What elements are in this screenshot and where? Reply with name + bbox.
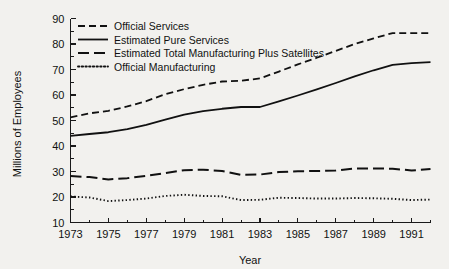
- legend-label-2: Estimated Total Manufacturing Plus Satel…: [114, 47, 324, 59]
- x-tick-label: 1977: [134, 228, 158, 240]
- x-tick-labels: 1973197519771979198119831985198719891991: [58, 228, 424, 240]
- employment-line-chart: 102030405060708090 197319751977197919811…: [0, 0, 449, 269]
- x-tick-label: 1979: [172, 228, 196, 240]
- y-axis-title: Millions of Employees: [11, 70, 23, 177]
- y-tick-label: 60: [52, 89, 64, 101]
- legend-label-1: Estimated Pure Services: [114, 34, 229, 46]
- x-axis-title: Year: [239, 254, 262, 266]
- x-tick-label: 1983: [248, 228, 272, 240]
- y-tick-label: 40: [52, 140, 64, 152]
- y-tick-label: 20: [52, 191, 64, 203]
- series-line-2: [71, 168, 431, 179]
- series-line-3: [71, 195, 431, 201]
- legend-label-0: Official Services: [114, 20, 189, 32]
- y-tick-label: 90: [52, 13, 64, 25]
- y-tick-label: 50: [52, 115, 64, 127]
- plot-area: 102030405060708090 197319751977197919811…: [11, 13, 431, 267]
- series-line-0: [71, 33, 431, 117]
- y-tick-label: 70: [52, 64, 64, 76]
- chart-legend: Official ServicesEstimated Pure Services…: [78, 20, 324, 73]
- x-tick-label: 1981: [210, 228, 234, 240]
- legend-label-3: Official Manufacturing: [114, 61, 216, 73]
- y-tick-labels: 102030405060708090: [52, 13, 64, 229]
- x-tick-label: 1985: [286, 228, 310, 240]
- x-tick-label: 1973: [58, 228, 82, 240]
- x-tick-label: 1975: [96, 228, 120, 240]
- x-tick-label: 1991: [399, 228, 423, 240]
- chart-figure: 102030405060708090 197319751977197919811…: [0, 0, 449, 269]
- x-tick-label: 1989: [361, 228, 385, 240]
- y-tick-label: 80: [52, 38, 64, 50]
- series-line-1: [71, 62, 431, 136]
- x-tick-label: 1987: [324, 228, 348, 240]
- y-tick-label: 30: [52, 166, 64, 178]
